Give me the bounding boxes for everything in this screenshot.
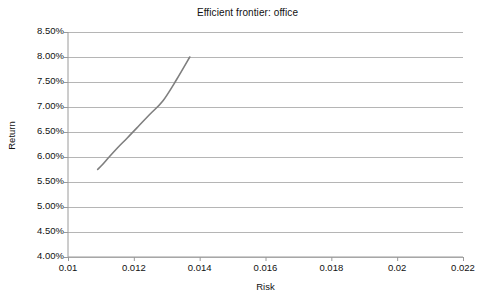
x-tick-label: 0.02 <box>388 262 407 273</box>
x-tick-label: 0.014 <box>188 262 212 273</box>
x-tick-label: 0.012 <box>122 262 146 273</box>
y-tick-label: 6.00% <box>20 150 64 161</box>
x-tick-labels: 0.010.0120.0140.0160.0180.020.022 <box>0 262 495 278</box>
y-axis-title: Return <box>6 106 17 166</box>
x-tick-label: 0.022 <box>451 262 475 273</box>
y-tick-label: 7.50% <box>20 75 64 86</box>
y-tick-label: 8.50% <box>20 25 64 36</box>
y-tick-label: 5.00% <box>20 200 64 211</box>
y-tick-label: 4.50% <box>20 225 64 236</box>
y-tick-labels: 4.00%4.50%5.00%5.50%6.00%6.50%7.00%7.50%… <box>18 0 64 303</box>
series-line <box>98 57 190 170</box>
y-tick-label: 8.00% <box>20 50 64 61</box>
y-tick-label: 6.50% <box>20 125 64 136</box>
y-tick-label: 5.50% <box>20 175 64 186</box>
x-tick-label: 0.01 <box>59 262 78 273</box>
x-tick-label: 0.016 <box>254 262 278 273</box>
x-axis-title: Risk <box>68 281 463 292</box>
y-tick-marks <box>64 33 68 258</box>
x-tick-label: 0.018 <box>319 262 343 273</box>
chart-container: Efficient frontier: office 4.00%4.50%5.0… <box>0 0 495 303</box>
data-series-group <box>98 57 190 170</box>
y-tick-label: 7.00% <box>20 100 64 111</box>
axes-group <box>68 32 463 257</box>
y-tick-label: 4.00% <box>20 250 64 261</box>
plot-area <box>0 0 495 303</box>
gridlines-group <box>68 33 463 258</box>
